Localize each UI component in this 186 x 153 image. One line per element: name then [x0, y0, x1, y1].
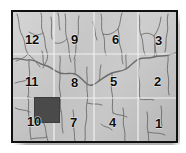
- quadrant-label-10: 10: [27, 115, 41, 128]
- quadrant-label-5: 5: [110, 75, 117, 88]
- quadrant-map-figure: 12 9 6 3 11 8 5 2 10 7 4 1: [0, 0, 186, 153]
- quadrant-label-7: 7: [70, 116, 77, 129]
- quadrant-label-1: 1: [155, 117, 162, 130]
- scan-edge-shadow-bottom: [13, 143, 180, 145]
- quadrant-label-8: 8: [71, 76, 78, 89]
- quadrant-label-12: 12: [25, 33, 39, 46]
- quadrant-label-6: 6: [112, 33, 119, 46]
- quadrant-label-4: 4: [109, 116, 116, 129]
- quadrant-label-11: 11: [25, 75, 38, 88]
- quadrant-label-3: 3: [155, 34, 162, 47]
- quadrant-label-2: 2: [154, 75, 161, 88]
- scan-edge-shadow-right: [178, 12, 180, 145]
- quadrant-label-9: 9: [71, 33, 78, 46]
- map-frame: 12 9 6 3 11 8 5 2 10 7 4 1: [11, 10, 178, 143]
